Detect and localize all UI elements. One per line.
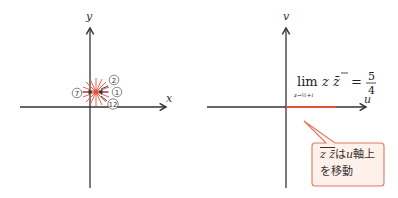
- callout-text: z z̄はu軸上 を移動: [320, 146, 375, 180]
- v-axis-label: v: [283, 10, 290, 23]
- svg-text:12: 12: [109, 101, 118, 109]
- svg-text:1: 1: [115, 89, 119, 97]
- svg-text:lim: lim: [297, 74, 318, 89]
- marker-2: 2: [109, 75, 119, 85]
- svg-text:=: =: [351, 74, 362, 89]
- callout-line-2: を移動: [320, 163, 375, 180]
- svg-text:4: 4: [368, 84, 375, 97]
- left-plane: x y: [20, 10, 173, 188]
- zzbar-math: z z̄: [320, 148, 335, 161]
- marker-1: 1: [112, 87, 122, 97]
- y-axis-label: y: [85, 10, 93, 23]
- callout-line-1: z z̄はu軸上: [320, 146, 375, 163]
- x-axis-label: x: [166, 92, 173, 105]
- svg-text:7: 7: [75, 90, 79, 98]
- svg-text:z z̄: z z̄: [321, 74, 340, 89]
- svg-text:z→½+i: z→½+i: [293, 92, 313, 98]
- svg-text:2: 2: [112, 77, 116, 85]
- callout-axis-text: 軸上: [353, 148, 375, 161]
- svg-text:5: 5: [368, 70, 375, 83]
- marker-12: 12: [108, 99, 118, 109]
- marker-7: 7: [72, 88, 82, 98]
- callout-particle: は: [335, 148, 346, 161]
